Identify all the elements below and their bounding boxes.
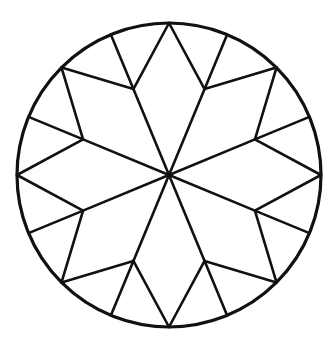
star-tip-edge (17, 175, 83, 211)
star-tip-edge (255, 211, 277, 283)
circle-spoke-line (29, 211, 84, 234)
star-tip-edge (62, 211, 84, 283)
star-tip-edge (255, 68, 277, 140)
star-tip-edge (169, 261, 205, 327)
star-tip-edge (133, 23, 169, 89)
circle-spoke-line (111, 261, 134, 316)
circle-spoke-line (255, 211, 310, 234)
star-tip-edge (255, 139, 321, 175)
star-tip-edge (255, 175, 321, 211)
star-figure (0, 0, 327, 346)
circle-spoke-line (205, 35, 228, 90)
star-circle-diagram (0, 0, 327, 346)
star-tip-edge (169, 23, 205, 89)
star-tip-edge (205, 261, 277, 283)
circle-spoke-line (111, 35, 134, 90)
star-tip-edge (205, 68, 277, 90)
circle-spoke-line (205, 261, 228, 316)
circle-spoke-line (255, 117, 310, 140)
star-tip-edge (62, 261, 134, 283)
circle-spoke-line (29, 117, 84, 140)
star-tip-edge (17, 139, 83, 175)
star-tip-edge (62, 68, 84, 140)
star-tip-edge (133, 261, 169, 327)
star-tip-edge (62, 68, 134, 90)
